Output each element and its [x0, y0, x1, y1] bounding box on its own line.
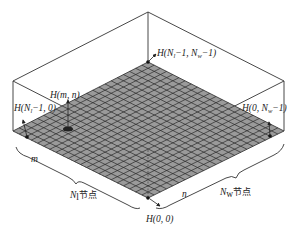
label-right-corner: H(0, Nw−1)	[241, 103, 287, 114]
label-length-nodes: Nl节点	[69, 190, 97, 202]
label-interior-point: H(m, n)	[49, 90, 80, 101]
label-left-corner: H(Nl−1, 0)	[13, 103, 56, 114]
label-width-nodes: Nw节点	[219, 187, 251, 199]
top-corner-arrow	[148, 54, 156, 62]
label-axis-n: n	[182, 189, 187, 199]
height-field-grid-diagram: H(Nl−1, Nw−1) H(Nl−1, 0) H(0, Nw−1) H(0,…	[0, 0, 294, 233]
label-bottom-corner: H(0, 0)	[145, 214, 173, 225]
bottom-corner-dot	[146, 196, 150, 200]
bottom-corner-arrow	[150, 199, 160, 206]
label-top-corner: H(Nl−1, Nw−1)	[156, 48, 216, 59]
grid-surface	[13, 62, 284, 198]
label-axis-m: m	[31, 154, 38, 164]
